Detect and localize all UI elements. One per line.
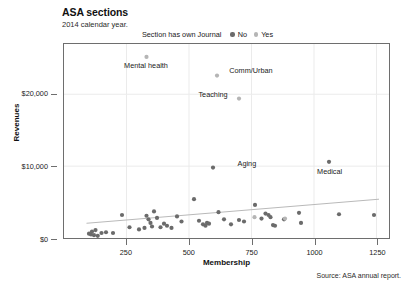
- page-title: ASA sections: [62, 6, 128, 18]
- x-tick-mark: [126, 239, 127, 245]
- data-point-no[interactable]: [337, 212, 341, 216]
- data-point-no[interactable]: [144, 214, 148, 218]
- x-tick-label: 750: [246, 248, 258, 257]
- data-point-no[interactable]: [99, 231, 103, 235]
- x-tick-label: 1250: [369, 248, 385, 257]
- data-point-no[interactable]: [158, 225, 162, 229]
- data-point-no[interactable]: [148, 221, 152, 225]
- point-label: Medical: [317, 167, 342, 176]
- chart-subtitle: 2014 calendar year.: [62, 20, 128, 29]
- data-point-no[interactable]: [197, 219, 201, 223]
- data-point-no[interactable]: [96, 234, 100, 238]
- data-point-no[interactable]: [297, 211, 301, 215]
- data-point-no[interactable]: [327, 160, 331, 164]
- data-point-no[interactable]: [259, 217, 263, 221]
- legend-swatch-no: [230, 32, 234, 36]
- data-point-no[interactable]: [175, 214, 179, 218]
- chart-legend: Section has own Journal No Yes: [0, 30, 415, 39]
- data-point-no[interactable]: [242, 219, 246, 223]
- x-tick-label: 250: [120, 248, 132, 257]
- legend-entry-no[interactable]: No: [230, 30, 247, 39]
- x-tick-label: 1000: [306, 248, 322, 257]
- data-point-no[interactable]: [372, 213, 376, 217]
- data-point-no[interactable]: [150, 224, 154, 228]
- x-tick-label: 500: [183, 248, 195, 257]
- x-tick-mark: [377, 239, 378, 245]
- data-point-no[interactable]: [211, 166, 215, 170]
- data-point-no[interactable]: [137, 227, 141, 231]
- y-tick-label: $0: [40, 235, 48, 244]
- data-point-no[interactable]: [111, 231, 115, 235]
- data-point-no[interactable]: [268, 215, 272, 219]
- plot-area: [63, 43, 390, 239]
- y-tick-label: $10,000: [22, 162, 48, 171]
- data-point-yes[interactable]: [144, 55, 148, 59]
- data-point-no[interactable]: [152, 209, 156, 213]
- data-point-no[interactable]: [146, 217, 150, 221]
- point-label: Aging: [238, 159, 257, 168]
- data-point-no[interactable]: [216, 210, 220, 214]
- point-label: Comm/Urban: [229, 66, 272, 75]
- data-point-no[interactable]: [142, 226, 146, 230]
- y-tick-mark: [51, 94, 57, 95]
- data-point-no[interactable]: [179, 219, 183, 223]
- data-point-no[interactable]: [229, 222, 233, 226]
- legend-entry-yes[interactable]: Yes: [254, 30, 273, 39]
- data-point-no[interactable]: [92, 233, 96, 237]
- scatter-plot-canvas: [64, 44, 389, 238]
- data-point-yes[interactable]: [215, 74, 219, 78]
- data-point-no[interactable]: [169, 226, 173, 230]
- data-point-no[interactable]: [165, 224, 169, 228]
- data-point-no[interactable]: [222, 217, 226, 221]
- y-tick-mark: [51, 239, 57, 240]
- x-axis-title: Membership: [63, 258, 390, 267]
- x-tick-mark: [315, 239, 316, 245]
- data-point-yes[interactable]: [237, 97, 241, 101]
- point-label: Mental health: [124, 61, 168, 70]
- point-label: Teaching: [198, 90, 227, 99]
- y-axis-tick-labels: $0$10,000$20,000: [0, 43, 57, 239]
- data-point-no[interactable]: [104, 230, 108, 234]
- data-point-no[interactable]: [127, 225, 131, 229]
- data-point-no[interactable]: [93, 228, 97, 232]
- legend-label-no: No: [238, 30, 247, 39]
- data-point-no[interactable]: [253, 203, 257, 207]
- x-axis-tick-labels: 25050075010001250: [63, 242, 390, 256]
- x-tick-mark: [189, 239, 190, 245]
- data-point-no[interactable]: [299, 221, 303, 225]
- legend-swatch-yes: [254, 32, 258, 36]
- data-point-no[interactable]: [192, 197, 196, 201]
- data-point-no[interactable]: [120, 213, 124, 217]
- source-note: Source: ASA annual report.: [317, 272, 401, 279]
- legend-label-yes: Yes: [261, 30, 273, 39]
- trend-line: [87, 199, 380, 223]
- data-point-no[interactable]: [273, 224, 277, 228]
- x-tick-mark: [252, 239, 253, 245]
- legend-title: Section has own Journal: [142, 30, 222, 39]
- data-point-yes[interactable]: [252, 215, 256, 219]
- data-point-no[interactable]: [207, 222, 211, 226]
- data-point-no[interactable]: [155, 216, 159, 220]
- y-tick-mark: [51, 166, 57, 167]
- chart-figure: ASA sections 2014 calendar year. Section…: [0, 0, 415, 294]
- y-tick-label: $20,000: [22, 89, 48, 98]
- data-point-no[interactable]: [237, 218, 241, 222]
- data-point-yes[interactable]: [283, 217, 287, 221]
